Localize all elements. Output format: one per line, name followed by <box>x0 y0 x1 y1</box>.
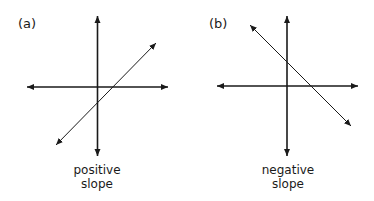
caption-line-2: slope <box>57 177 137 191</box>
panel-a-caption: positive slope <box>57 163 137 191</box>
panel-b-graph <box>217 16 358 156</box>
panel-b-caption: negative slope <box>248 163 328 191</box>
panel-b-label: (b) <box>209 16 227 31</box>
caption-line-1: negative <box>248 163 328 177</box>
panel-a-graph <box>27 16 168 156</box>
negative-slope-line <box>250 25 300 75</box>
caption-line-2: slope <box>248 177 328 191</box>
caption-line-1: positive <box>57 163 137 177</box>
panel-a-label: (a) <box>18 16 36 31</box>
